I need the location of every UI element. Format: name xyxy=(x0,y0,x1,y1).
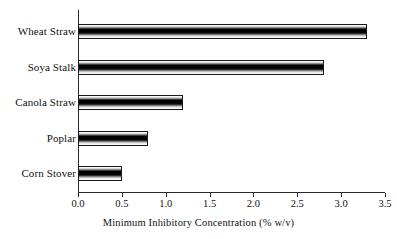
y-axis-label: Wheat Straw xyxy=(0,26,76,37)
bar-row xyxy=(78,24,367,39)
x-axis-tick-label: 2.5 xyxy=(277,198,317,210)
x-axis-tick-label: 0.5 xyxy=(102,198,142,210)
x-axis-title: Minimum Inhibitory Concentration (% w/v) xyxy=(0,216,397,229)
x-axis-tick-label: 1.5 xyxy=(190,198,230,210)
x-axis-tick-label: 2.0 xyxy=(233,198,273,210)
y-axis-label: Corn Stover xyxy=(0,168,76,179)
x-axis-tick-mark xyxy=(166,193,167,197)
x-axis-tick-mark xyxy=(210,193,211,197)
x-axis-tick-label: 3.5 xyxy=(365,198,397,210)
x-axis-line xyxy=(78,192,385,193)
y-axis-label: Soya Stalk xyxy=(0,62,76,73)
bar-row xyxy=(78,166,122,181)
y-axis-label: Poplar xyxy=(0,133,76,144)
x-axis-tick-mark xyxy=(297,193,298,197)
bar-row xyxy=(78,60,324,75)
bar xyxy=(78,166,122,181)
bar-row xyxy=(78,95,183,110)
bar xyxy=(78,60,324,75)
x-axis-tick-mark xyxy=(341,193,342,197)
bar-chart-figure: Wheat StrawSoya StalkCanola StrawPoplarC… xyxy=(0,0,397,239)
x-axis-tick-mark xyxy=(253,193,254,197)
bar xyxy=(78,131,148,146)
bar xyxy=(78,95,183,110)
x-axis-tick-label: 1.0 xyxy=(146,198,186,210)
y-axis-label: Canola Straw xyxy=(0,97,76,108)
bar xyxy=(78,24,367,39)
x-axis-tick-mark xyxy=(122,193,123,197)
bar-row xyxy=(78,131,148,146)
x-axis-tick-label: 3.0 xyxy=(321,198,361,210)
x-axis-tick-mark xyxy=(78,193,79,197)
x-axis-tick-label: 0.0 xyxy=(58,198,98,210)
x-axis-tick-mark xyxy=(385,193,386,197)
